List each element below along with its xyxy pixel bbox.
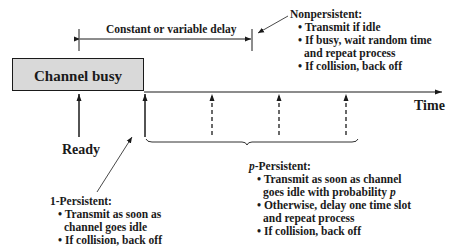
p-persistent-bullet-1-cont: goes idle with probability p — [249, 186, 411, 199]
ready-label: Ready — [62, 143, 100, 157]
p-persistent-bullet-2-cont: and repeat process — [249, 212, 411, 225]
nonpersistent-bullet-2-cont: and repeat process — [290, 47, 432, 60]
p-persistent-description: p-Persistent: • Transmit as soon as chan… — [249, 160, 411, 238]
p-persistent-bullet-2: • Otherwise, delay one time slot — [249, 199, 411, 212]
one-persistent-description: 1-Persistent: • Transmit as soon as chan… — [50, 195, 162, 247]
delay-label: Constant or variable delay — [106, 24, 236, 36]
one-persistent-pointer — [97, 137, 132, 192]
nonpersistent-bullet-3: • If collision, back off — [290, 60, 432, 73]
one-persistent-title: 1-Persistent: — [50, 195, 162, 208]
p-persistent-bullet-3: • If collision, back off — [249, 225, 411, 238]
channel-busy-label: Channel busy — [13, 68, 143, 85]
nonpersistent-pointer — [258, 16, 288, 33]
nonpersistent-bullet-1: • Transmit if idle — [290, 21, 432, 34]
channel-busy-box: Channel busy — [12, 58, 144, 91]
nonpersistent-title: Nonpersistent: — [290, 8, 432, 21]
p-persistent-brace — [146, 139, 358, 145]
nonpersistent-description: Nonpersistent: • Transmit if idle • If b… — [290, 8, 432, 73]
one-persistent-bullet-1-cont: channel goes idle — [50, 221, 162, 234]
time-axis-label: Time — [414, 99, 445, 113]
p-persistent-title: p-Persistent: — [249, 160, 411, 173]
one-persistent-bullet-1: • Transmit as soon as — [50, 208, 162, 221]
p-persistent-bullet-1: • Transmit as soon as channel — [249, 173, 411, 186]
nonpersistent-bullet-2: • If busy, wait random time — [290, 34, 432, 47]
one-persistent-bullet-2: • If collision, back off — [50, 234, 162, 247]
